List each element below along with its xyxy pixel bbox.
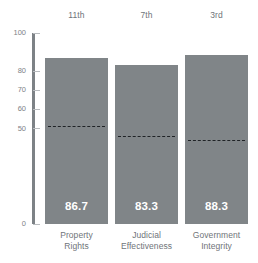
bar-chart: 11th 7th 3rd 100 80 70 60 50 0 86.7 83.3… xyxy=(0,0,258,263)
y-tick-3 xyxy=(33,109,40,110)
bar-value-1: 83.3 xyxy=(115,200,178,213)
y-tick-label-0: 100 xyxy=(0,29,26,37)
reference-line-1 xyxy=(118,136,175,137)
y-tick-label-5: 0 xyxy=(0,220,26,228)
y-tick-4 xyxy=(33,128,40,129)
category-label-2: GovernmentIntegrity xyxy=(175,230,258,251)
y-tick-label-2: 70 xyxy=(0,86,26,94)
plot-area: 100 80 70 60 50 0 86.7 83.3 88.3 Propert… xyxy=(0,0,258,263)
y-tick-0 xyxy=(33,33,40,34)
reference-line-2 xyxy=(188,140,245,141)
bar-value-0: 86.7 xyxy=(45,200,108,213)
reference-line-0 xyxy=(48,126,105,127)
y-tick-5 xyxy=(33,224,40,225)
y-tick-label-3: 60 xyxy=(0,105,26,113)
y-tick-1 xyxy=(33,71,40,72)
y-tick-label-4: 50 xyxy=(0,125,26,133)
y-tick-label-1: 80 xyxy=(0,67,26,75)
bar-value-2: 88.3 xyxy=(185,200,248,213)
y-tick-2 xyxy=(33,90,40,91)
